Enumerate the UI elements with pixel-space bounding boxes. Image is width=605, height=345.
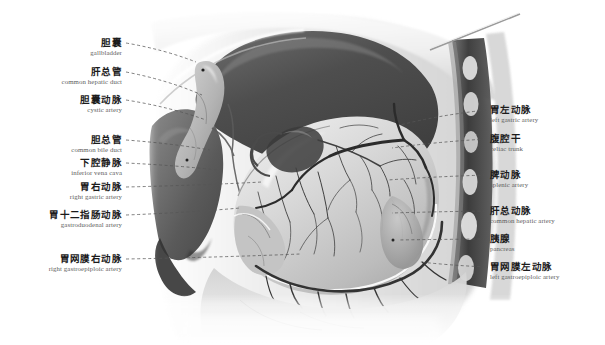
label-en: left gastric artery	[490, 116, 538, 124]
label-en: right gastric artery	[70, 193, 122, 201]
label-cn: 肝总动脉	[490, 206, 555, 217]
label-left-gastroepiploic-artery: 胃网膜左动脉left gastroepiploic artery	[490, 262, 559, 281]
label-en: gallbladder	[90, 49, 122, 57]
label-en: right gastroepiploic artery	[49, 265, 122, 273]
label-celiac-trunk: 腹腔干celiac trunk	[490, 134, 523, 153]
label-cn: 胃网膜右动脉	[49, 254, 122, 265]
label-cn: 胃左动脉	[490, 105, 538, 116]
label-cn: 胆总管	[71, 135, 122, 146]
label-en: common hepatic artery	[490, 217, 555, 225]
label-inferior-vena-cava: 下腔静脉inferior vena cava	[71, 158, 122, 177]
label-cn: 腹腔干	[490, 134, 523, 145]
label-common-hepatic-duct: 肝总管common hepatic duct	[62, 67, 122, 86]
label-gastroduodenal-artery: 胃十二指肠动脉gastroduodenal artery	[49, 210, 122, 229]
label-en: pancreas	[490, 245, 515, 253]
label-cn: 胆囊动脉	[80, 95, 122, 106]
label-en: gastroduodenal artery	[49, 221, 122, 229]
label-cn: 胃十二指肠动脉	[49, 210, 122, 221]
label-gallbladder: 胆囊gallbladder	[90, 38, 122, 57]
label-cn: 胆囊	[90, 38, 122, 49]
label-en: celiac trunk	[490, 145, 523, 153]
label-cn: 肝总管	[62, 67, 122, 78]
label-en: common hepatic duct	[62, 78, 122, 86]
label-cn: 脾动脉	[490, 170, 528, 181]
label-en: left gastroepiploic artery	[490, 273, 559, 281]
label-en: inferior vena cava	[71, 169, 122, 177]
spine-and-ribs	[448, 32, 516, 300]
label-pancreas: 胰腺pancreas	[490, 234, 515, 253]
label-left-gastric-artery: 胃左动脉left gastric artery	[490, 105, 538, 124]
label-cn: 胃网膜左动脉	[490, 262, 559, 273]
label-cystic-artery: 胆囊动脉cystic artery	[80, 95, 122, 114]
label-splenic-artery: 脾动脉splenic artery	[490, 170, 528, 189]
label-en: splenic artery	[490, 181, 528, 189]
label-common-bile-duct: 胆总管common bile duct	[71, 135, 122, 154]
label-en: cystic artery	[80, 106, 122, 114]
label-cn: 胰腺	[490, 234, 515, 245]
label-common-hepatic-artery: 肝总动脉common hepatic artery	[490, 206, 555, 225]
label-right-gastroepiploic-artery: 胃网膜右动脉right gastroepiploic artery	[49, 254, 122, 273]
label-cn: 下腔静脉	[71, 158, 122, 169]
label-right-gastric-artery: 胃右动脉right gastric artery	[70, 182, 122, 201]
label-en: common bile duct	[71, 146, 122, 154]
label-cn: 胃右动脉	[70, 182, 122, 193]
